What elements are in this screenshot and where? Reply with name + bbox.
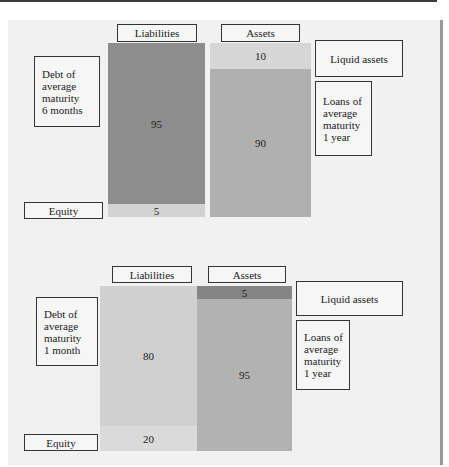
liquid-assets-segment: 10 <box>210 43 311 69</box>
debt-label-line: 6 months <box>42 104 99 116</box>
loans-maturity-label: Loans of average maturity 1 year <box>296 320 350 390</box>
debt-label-line: Debt of <box>44 308 97 320</box>
liquid-assets-segment: 5 <box>197 286 292 299</box>
equity-segment: 5 <box>108 204 205 217</box>
loans-maturity-label: Loans of average maturity 1 year <box>315 81 372 156</box>
assets-header: Assets <box>208 266 286 283</box>
debt-segment: 95 <box>108 43 205 204</box>
debt-segment: 80 <box>100 286 197 426</box>
panel-right-border <box>440 20 443 465</box>
top-rule <box>0 0 437 2</box>
loans-label-line: maturity <box>323 119 371 131</box>
loans-label-line: maturity <box>304 355 349 367</box>
loans-label-line: 1 year <box>323 131 371 143</box>
debt-maturity-label: Debt of average maturity 1 month <box>36 297 98 366</box>
debt-label-line: average <box>44 320 97 332</box>
liabilities-header: Liabilities <box>117 24 197 42</box>
loans-segment: 90 <box>210 69 311 217</box>
loans-label-line: Loans of <box>304 331 349 343</box>
equity-label: Equity <box>24 434 98 451</box>
debt-label-line: average <box>42 80 99 92</box>
liquid-assets-label: Liquid assets <box>315 40 403 77</box>
loans-label-line: average <box>323 107 371 119</box>
debt-label-line: 1 month <box>44 344 97 356</box>
equity-label: Equity <box>24 202 103 219</box>
assets-header: Assets <box>221 24 300 42</box>
equity-segment: 20 <box>100 426 197 451</box>
loans-label-line: average <box>304 343 349 355</box>
liquid-assets-label: Liquid assets <box>296 281 403 316</box>
debt-label-line: Debt of <box>42 68 99 80</box>
liabilities-header: Liabilities <box>112 266 192 283</box>
loans-label-line: 1 year <box>304 367 349 379</box>
debt-label-line: maturity <box>42 92 99 104</box>
loans-label-line: Loans of <box>323 95 371 107</box>
debt-label-line: maturity <box>44 332 97 344</box>
debt-maturity-label: Debt of average maturity 6 months <box>34 56 100 127</box>
loans-segment: 95 <box>197 299 292 451</box>
